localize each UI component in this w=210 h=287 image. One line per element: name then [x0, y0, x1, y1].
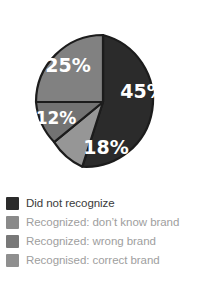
legend: Did not recognize Recognized: don’t know… — [6, 194, 210, 270]
legend-item-label: Recognized: wrong brand — [26, 235, 156, 248]
pie-chart: 45% 18% 12% 25% — [0, 0, 210, 186]
chart-page: 45% 18% 12% 25% Did not recognize Recogn… — [0, 0, 210, 287]
legend-swatch-icon — [6, 254, 19, 267]
legend-swatch-icon — [6, 235, 19, 248]
legend-item-recognized-dont-know-brand[interactable]: Recognized: don’t know brand — [6, 213, 210, 232]
pie-label-45: 45% — [120, 80, 165, 102]
legend-item-did-not-recognize[interactable]: Did not recognize — [6, 194, 210, 213]
pie-label-18: 18% — [83, 136, 128, 158]
legend-item-recognized-wrong-brand[interactable]: Recognized: wrong brand — [6, 232, 210, 251]
legend-swatch-icon — [6, 216, 19, 229]
legend-item-label: Did not recognize — [26, 197, 115, 210]
pie-label-12: 12% — [36, 108, 77, 128]
legend-swatch-icon — [6, 197, 19, 210]
pie-label-25: 25% — [45, 54, 90, 76]
legend-item-label: Recognised: correct brand — [26, 254, 160, 267]
pie-chart-svg: 45% 18% 12% 25% — [0, 0, 210, 186]
legend-item-recognised-correct-brand[interactable]: Recognised: correct brand — [6, 251, 210, 270]
legend-item-label: Recognized: don’t know brand — [26, 216, 179, 229]
